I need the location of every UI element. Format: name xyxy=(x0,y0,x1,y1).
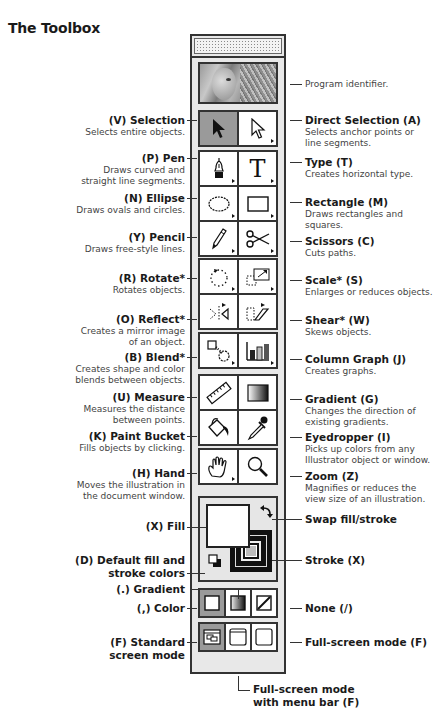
label-eyedropper: Eyedropper (I)Picks up colors from anyIl… xyxy=(305,431,430,466)
pencil-tool[interactable] xyxy=(200,222,237,255)
leader-line xyxy=(290,320,302,321)
zoom-tool[interactable] xyxy=(239,450,276,483)
color-button[interactable] xyxy=(200,590,224,616)
drawing-tool-group: T xyxy=(198,150,278,257)
ellipse-icon xyxy=(207,195,231,213)
leader-line xyxy=(272,519,302,520)
shear-icon xyxy=(245,301,271,323)
measure-tool[interactable] xyxy=(200,376,237,409)
label-shear: Shear* (W)Skews objects. xyxy=(305,314,371,338)
rectangle-tool[interactable] xyxy=(239,187,276,220)
column-graph-icon xyxy=(245,340,271,362)
fill-swatch[interactable] xyxy=(206,504,250,548)
leader-line xyxy=(290,202,302,203)
label-stroke: Stroke (X) xyxy=(305,554,365,567)
label-swap-fill-stroke: Swap fill/stroke xyxy=(305,513,397,526)
ruler-icon xyxy=(206,381,232,405)
toolbox-title-bar[interactable] xyxy=(194,38,282,54)
full-screen-menu-icon xyxy=(229,628,247,646)
leader-line xyxy=(187,642,197,643)
leader-line xyxy=(238,690,250,691)
reflect-tool[interactable] xyxy=(200,295,237,328)
type-icon: T xyxy=(249,157,265,181)
selection-tool[interactable] xyxy=(200,112,237,145)
leader-line xyxy=(290,120,302,121)
arrow-icon xyxy=(210,118,228,140)
flyout-indicator-icon xyxy=(232,477,235,481)
pen-nib-icon xyxy=(211,157,227,181)
label-pencil: (Y) PencilDraws free-style lines. xyxy=(85,231,185,255)
program-identifier-label: Program identifier. xyxy=(305,78,388,90)
label-zoom: Zoom (Z)Magnifies or reduces theview siz… xyxy=(305,470,425,505)
leader-line xyxy=(187,319,197,320)
ellipse-tool[interactable] xyxy=(200,187,237,220)
none-button[interactable] xyxy=(252,590,276,616)
standard-screen-mode-button[interactable] xyxy=(200,624,224,650)
column-graph-tool[interactable] xyxy=(239,334,276,367)
leader-line xyxy=(187,608,197,609)
label-standard-screen: (F) Standardscreen mode xyxy=(109,636,185,662)
paint-bucket-icon xyxy=(206,415,232,441)
leader-line xyxy=(238,676,239,690)
blend-tool[interactable] xyxy=(200,334,237,367)
gradient-tool[interactable] xyxy=(239,376,276,409)
leader-line xyxy=(290,241,302,242)
shear-tool[interactable] xyxy=(239,295,276,328)
scissors-icon xyxy=(245,230,271,248)
rotate-icon xyxy=(208,266,230,288)
leader-line xyxy=(187,397,197,398)
none-swatch-icon xyxy=(256,595,272,611)
eyedropper-tool[interactable] xyxy=(239,411,276,444)
program-identifier-image[interactable] xyxy=(198,62,278,104)
leader-line xyxy=(290,437,302,438)
leader-line xyxy=(290,399,302,400)
leader-line xyxy=(187,120,197,121)
transform-tool-group xyxy=(198,258,278,330)
label-direct-selection: Direct Selection (A)Selects anchor point… xyxy=(305,114,421,149)
flyout-indicator-icon xyxy=(232,361,235,365)
reflect-icon xyxy=(207,301,231,323)
scissors-tool[interactable] xyxy=(239,222,276,255)
toolbox-palette: T xyxy=(190,34,286,674)
flyout-indicator-icon xyxy=(232,179,235,183)
swap-fill-stroke-icon[interactable] xyxy=(258,504,274,520)
leader-line xyxy=(187,573,205,574)
hand-tool[interactable] xyxy=(200,450,237,483)
label-fill: (X) Fill xyxy=(146,520,185,533)
pen-tool[interactable] xyxy=(200,152,237,185)
pencil-icon xyxy=(210,227,228,251)
label-full-screen: Full-screen mode (F) xyxy=(305,636,427,649)
paint-bucket-tool[interactable] xyxy=(200,411,237,444)
label-selection: (V) SelectionSelects entire objects. xyxy=(85,114,185,138)
leader-line xyxy=(290,608,302,609)
blend-graph-tool-group xyxy=(198,332,278,369)
view-tool-group xyxy=(198,448,278,485)
label-scale: Scale* (S)Enlarges or reduces objects. xyxy=(305,274,433,298)
leader-line xyxy=(290,642,302,643)
leader-line xyxy=(187,158,197,159)
leader-line xyxy=(238,589,239,599)
gradient-icon xyxy=(246,383,270,403)
leader-line xyxy=(187,198,197,199)
leader-line xyxy=(187,473,197,474)
divider xyxy=(192,56,284,58)
leader-line xyxy=(290,476,302,477)
rotate-tool[interactable] xyxy=(200,260,237,293)
leader-line xyxy=(187,357,197,358)
screen-mode-group xyxy=(198,622,278,652)
label-color-mode: (,) Color xyxy=(137,602,185,615)
label-measure: (U) MeasureMeasures the distancebetween … xyxy=(83,391,185,426)
leader-line xyxy=(187,278,197,279)
selection-tool-group xyxy=(198,110,278,147)
full-screen-menu-bar-button[interactable] xyxy=(226,624,250,650)
leader-line xyxy=(290,84,302,85)
type-tool[interactable]: T xyxy=(239,152,276,185)
magnifier-icon xyxy=(246,455,270,479)
rectangle-icon xyxy=(246,195,270,213)
standard-screen-icon xyxy=(203,629,221,645)
full-screen-button[interactable] xyxy=(252,624,276,650)
default-colors-icon[interactable] xyxy=(208,554,222,568)
leader-line xyxy=(187,237,197,238)
scale-tool[interactable] xyxy=(239,260,276,293)
direct-selection-tool[interactable] xyxy=(239,112,276,145)
